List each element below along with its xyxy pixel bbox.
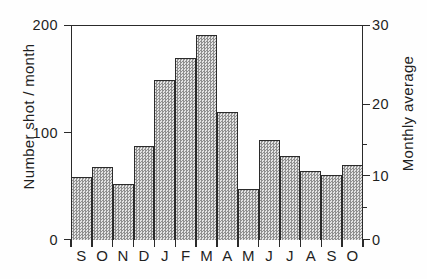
y-axis-title: Number shot / month xyxy=(20,27,37,207)
x-axis-tick-6 xyxy=(195,240,196,247)
x-axis-tick-9 xyxy=(258,240,259,247)
x-axis-tick-7 xyxy=(216,240,217,247)
y-axis-tick-200 xyxy=(64,25,71,26)
x-axis-label-container: SONDJFMAMJJASO xyxy=(71,247,363,273)
y2-axis-tick-20 xyxy=(363,104,370,105)
bar-j-10 xyxy=(280,156,301,240)
bar-j-4 xyxy=(154,80,175,240)
y2-axis-minor-tick-15 xyxy=(363,144,367,145)
bar-chart: 200 100 0 30 20 10 0 SONDJFMAMJJASO Numb… xyxy=(0,0,427,279)
bar-s-0 xyxy=(71,177,92,240)
x-axis-label-10: J xyxy=(280,247,301,273)
y2-axis-title: Monthly average xyxy=(399,24,416,204)
y2-axis-tick-label-0: 0 xyxy=(372,232,412,248)
x-axis-tick-12 xyxy=(321,240,322,247)
x-axis-tick-11 xyxy=(300,240,301,247)
y2-axis-tick-10 xyxy=(363,175,370,176)
x-axis-label-13: O xyxy=(342,247,363,273)
x-axis-tick-14 xyxy=(362,240,363,247)
x-axis-tick-5 xyxy=(175,240,176,247)
x-axis-label-8: M xyxy=(238,247,259,273)
x-axis-label-6: M xyxy=(196,247,217,273)
x-axis-tick-10 xyxy=(279,240,280,247)
bar-s-12 xyxy=(321,175,342,240)
x-axis-tick-8 xyxy=(237,240,238,247)
x-axis-label-5: F xyxy=(175,247,196,273)
bar-n-2 xyxy=(113,184,134,240)
x-axis-tick-1 xyxy=(91,240,92,247)
x-axis-label-2: N xyxy=(113,247,134,273)
x-axis-tick-13 xyxy=(341,240,342,247)
bar-o-1 xyxy=(92,167,113,240)
x-axis-label-1: O xyxy=(92,247,113,273)
y2-axis-tick-30 xyxy=(363,25,370,26)
x-axis-label-0: S xyxy=(71,247,92,273)
x-axis-label-3: D xyxy=(134,247,155,273)
y-axis-tick-label-0: 0 xyxy=(8,232,58,248)
bar-o-13 xyxy=(342,165,363,240)
x-axis-tick-2 xyxy=(112,240,113,247)
bar-a-7 xyxy=(217,112,238,240)
bar-m-8 xyxy=(238,189,259,240)
x-axis-tick-0 xyxy=(70,240,71,247)
y-axis-tick-100 xyxy=(64,132,71,133)
x-axis-label-11: A xyxy=(300,247,321,273)
x-axis-tick-4 xyxy=(154,240,155,247)
bar-j-9 xyxy=(259,140,280,240)
bar-d-3 xyxy=(134,146,155,240)
y2-axis-minor-tick-5 xyxy=(363,207,367,208)
bar-f-5 xyxy=(175,58,196,240)
x-axis-label-4: J xyxy=(154,247,175,273)
bar-m-6 xyxy=(196,35,217,240)
x-axis-tick-3 xyxy=(133,240,134,247)
x-axis-label-7: A xyxy=(217,247,238,273)
x-axis-label-9: J xyxy=(259,247,280,273)
bar-series-container xyxy=(71,25,363,240)
y2-axis-tick-0 xyxy=(363,239,370,240)
x-axis-label-12: S xyxy=(321,247,342,273)
bar-a-11 xyxy=(300,171,321,240)
